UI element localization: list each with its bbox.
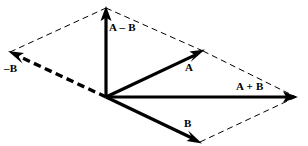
vector-label-a-minus-b: A – B <box>109 22 136 33</box>
vector-diagram-canvas <box>0 0 308 146</box>
vector-a-line <box>106 55 196 97</box>
vector-label-a: A <box>185 62 193 73</box>
vector-minus-b-line <box>16 55 106 97</box>
vector-label-a-plus-b: A + B <box>236 81 263 92</box>
vector-b-line <box>106 97 193 139</box>
construction-line-aplusb-to-b <box>200 97 296 142</box>
construction-line-minusb-to-aminusb <box>10 8 106 52</box>
vector-label-b: B <box>184 118 192 129</box>
vector-label-minus-b: –B <box>4 63 17 74</box>
vector-diagram: A B A + B A – B –B <box>0 0 308 146</box>
